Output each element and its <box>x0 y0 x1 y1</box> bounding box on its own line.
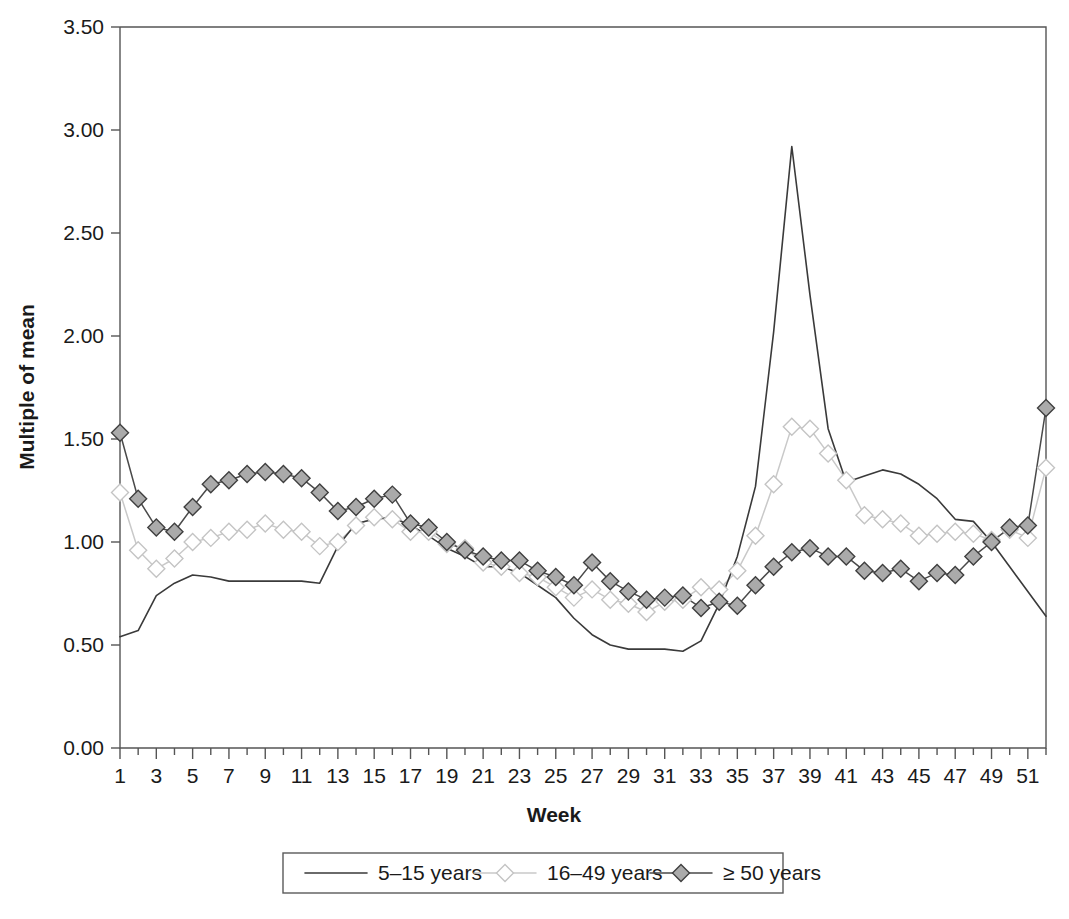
series-marker-2 <box>765 476 782 493</box>
x-tick-label: 35 <box>726 764 749 787</box>
x-tick-label: 11 <box>291 764 313 787</box>
x-tick-label: 41 <box>835 764 858 787</box>
series-marker-3 <box>874 564 891 581</box>
series-marker-3 <box>838 548 855 565</box>
series-marker-2 <box>1038 459 1055 476</box>
chart-figure: 0.000.501.001.502.002.503.003.50 1357911… <box>0 0 1069 919</box>
series-marker-2 <box>856 507 873 524</box>
x-tick-label: 1 <box>114 764 126 787</box>
series-marker-3 <box>1038 400 1055 417</box>
y-axis-title: Multiple of mean <box>15 304 38 470</box>
series-marker-2 <box>874 511 891 528</box>
series-marker-3 <box>620 583 637 600</box>
series-marker-3 <box>257 463 274 480</box>
series-marker-3 <box>929 564 946 581</box>
series-marker-3 <box>801 540 818 557</box>
series-marker-2 <box>293 523 310 540</box>
x-tick-label: 49 <box>980 764 1003 787</box>
series-marker-2 <box>384 511 401 528</box>
series-marker-3 <box>511 552 528 569</box>
series-marker-2 <box>220 523 237 540</box>
series-marker-2 <box>947 523 964 540</box>
series-marker-3 <box>130 490 147 507</box>
series-marker-3 <box>456 542 473 559</box>
series-line-3 <box>120 408 1046 608</box>
series-marker-2 <box>602 591 619 608</box>
x-axis: 1357911131517192123252729313335373941434… <box>114 748 1046 787</box>
series-marker-3 <box>547 569 564 586</box>
series-marker-2 <box>366 509 383 526</box>
x-tick-label: 5 <box>187 764 199 787</box>
x-tick-label: 15 <box>363 764 386 787</box>
series-marker-3 <box>565 577 582 594</box>
x-tick-label: 23 <box>508 764 531 787</box>
series-marker-3 <box>220 472 237 489</box>
legend-label: 16–49 years <box>547 861 663 884</box>
line-chart: 0.000.501.001.502.002.503.003.50 1357911… <box>0 0 1069 919</box>
x-tick-label: 13 <box>326 764 349 787</box>
x-tick-label: 7 <box>223 764 235 787</box>
x-tick-label: 19 <box>435 764 458 787</box>
series-marker-3 <box>275 466 292 483</box>
series-marker-2 <box>892 515 909 532</box>
series-marker-2 <box>584 581 601 598</box>
series-marker-3 <box>366 490 383 507</box>
series-marker-3 <box>910 573 927 590</box>
series-marker-3 <box>1019 517 1036 534</box>
y-tick-label: 0.00 <box>63 736 104 759</box>
x-axis-title: Week <box>527 803 582 826</box>
x-tick-label: 51 <box>1016 764 1039 787</box>
x-tick-label: 39 <box>798 764 821 787</box>
series-marker-3 <box>638 591 655 608</box>
series-marker-2 <box>112 484 129 501</box>
x-tick-label: 29 <box>617 764 640 787</box>
series-marker-3 <box>856 562 873 579</box>
x-tick-label: 3 <box>150 764 162 787</box>
series-marker-2 <box>929 525 946 542</box>
x-tick-label: 43 <box>871 764 894 787</box>
series-marker-3 <box>239 466 256 483</box>
plot-frame <box>120 27 1046 748</box>
series-marker-2 <box>311 538 328 555</box>
x-tick-label: 25 <box>544 764 567 787</box>
x-tick-label: 31 <box>653 764 676 787</box>
series-marker-3 <box>438 534 455 551</box>
series-marker-3 <box>166 523 183 540</box>
series-marker-2 <box>747 527 764 544</box>
y-axis: 0.000.501.001.502.002.503.003.50 <box>63 15 120 759</box>
series-line-2 <box>120 427 1046 612</box>
series-marker-3 <box>384 486 401 503</box>
x-tick-label: 27 <box>580 764 603 787</box>
y-tick-label: 3.50 <box>63 15 104 38</box>
series-marker-2 <box>693 579 710 596</box>
legend-label: 5–15 years <box>378 861 482 884</box>
series-marker-3 <box>711 593 728 610</box>
series-marker-3 <box>202 476 219 493</box>
series-marker-3 <box>184 498 201 515</box>
series-marker-3 <box>348 498 365 515</box>
series-marker-3 <box>148 519 165 536</box>
series-marker-2 <box>910 527 927 544</box>
x-tick-label: 17 <box>399 764 422 787</box>
y-tick-label: 3.00 <box>63 118 104 141</box>
series-marker-2 <box>275 521 292 538</box>
series-layer <box>112 146 1055 651</box>
x-tick-label: 21 <box>471 764 494 787</box>
series-marker-3 <box>820 548 837 565</box>
series-marker-2 <box>801 420 818 437</box>
series-marker-2 <box>838 472 855 489</box>
series-marker-3 <box>693 599 710 616</box>
series-marker-2 <box>202 529 219 546</box>
series-marker-2 <box>257 515 274 532</box>
x-tick-label: 45 <box>907 764 930 787</box>
series-marker-3 <box>783 544 800 561</box>
y-tick-label: 2.50 <box>63 221 104 244</box>
series-marker-3 <box>892 560 909 577</box>
series-marker-3 <box>293 470 310 487</box>
y-tick-label: 0.50 <box>63 633 104 656</box>
x-tick-label: 47 <box>944 764 967 787</box>
chart-legend: 5–15 years16–49 years≥ 50 years <box>283 853 821 893</box>
x-tick-label: 9 <box>259 764 271 787</box>
series-marker-2 <box>239 521 256 538</box>
legend-label: ≥ 50 years <box>723 861 821 884</box>
